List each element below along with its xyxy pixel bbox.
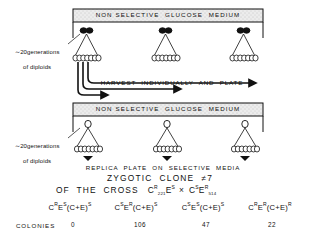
medium-label-bottom: NON SELECTIVE GLUCOSE MEDIUM: [96, 105, 241, 112]
replica-arrow-1: [83, 156, 93, 161]
harvest-step-label: HARVEST INDIVIDUALLY AND PLATE: [101, 79, 244, 86]
colonies-value-3: 47: [202, 221, 210, 228]
generations-label-bottom: ∼20generations of diploids: [8, 135, 60, 173]
clone-cluster-bottom-2: [153, 120, 181, 161]
caption-line-2: OF THE CROSSCR221ES×CSER514: [56, 184, 216, 196]
cross-parent-1: CR221ES: [148, 185, 175, 195]
cross-operator: ×: [179, 185, 185, 195]
genotype-1: CRES(C+E)S: [49, 201, 92, 212]
caption-cross-prefix: OF THE CROSS: [56, 185, 139, 195]
figure-root: NON SELECTIVE GLUCOSE MEDIUM ∼20generati…: [0, 0, 313, 240]
cross-parent-2: CSER514: [189, 185, 216, 195]
genotype-2: CSER(C+E)S: [115, 201, 158, 212]
colonies-row-label: COLONIES: [16, 222, 55, 229]
colonies-value-1: 0: [71, 221, 75, 228]
genotype-4: CRER(C+E)R: [248, 201, 291, 212]
generations-label-top-line1: ∼20generations: [15, 49, 59, 55]
generations-label-bottom-line1: ∼20generations: [15, 143, 59, 149]
leader-line-bottom: [68, 128, 80, 138]
caption-line-1: ZYGOTIC CLONE ≠7: [107, 173, 213, 183]
generations-label-top-line2: of diploids: [23, 64, 51, 72]
replica-step-label: REPLICA PLATE ON SELECTIVE MEDIA: [86, 164, 240, 171]
replica-arrow-2: [162, 156, 172, 161]
colonies-value-2: 106: [134, 221, 146, 228]
colonies-value-4: 22: [268, 221, 276, 228]
genotype-3: CSES(C+E)S: [182, 201, 225, 212]
clone-cluster-bottom-3: [231, 120, 259, 161]
clone-cluster-top-1: [73, 28, 101, 61]
medium-label-top: NON SELECTIVE GLUCOSE MEDIUM: [96, 11, 241, 18]
generations-label-bottom-line2: of diploids: [23, 158, 51, 166]
clone-cluster-top-2: [152, 28, 180, 61]
leader-line-top: [68, 34, 80, 44]
clone-cluster-top-3: [230, 28, 258, 61]
replica-arrow-3: [240, 156, 250, 161]
generations-label-top: ∼20generations of diploids: [8, 41, 60, 79]
clone-cluster-bottom-1: [74, 120, 102, 161]
